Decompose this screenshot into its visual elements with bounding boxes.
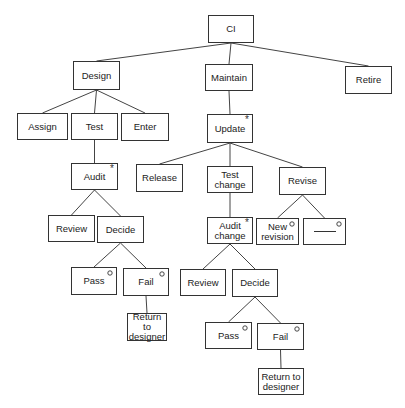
edge-ci-to-retire <box>231 43 369 66</box>
node-assign: Assign <box>17 113 68 140</box>
node-label: Assign <box>28 122 57 132</box>
node-fail-2: Fail <box>257 323 304 350</box>
selection-circle-icon <box>159 271 165 278</box>
selection-circle-icon <box>336 221 342 228</box>
node-label: Return to designer <box>261 372 300 392</box>
edge-ci-to-design <box>97 43 232 61</box>
edge-decide-2-to-pass-2 <box>229 297 256 322</box>
node-blank <box>303 218 346 245</box>
node-fail-1: Fail <box>123 268 169 296</box>
node-label: Test <box>86 122 103 132</box>
selection-circle-icon <box>294 326 300 333</box>
node-pass-1: Pass <box>71 267 117 295</box>
node-review-2: Review <box>180 269 226 296</box>
node-label: Test change <box>214 170 245 190</box>
node-label: Review <box>56 224 87 234</box>
sequence-asterisk-icon: * <box>245 219 249 226</box>
node-ci: CI <box>208 15 254 43</box>
node-label: Fail <box>273 332 288 342</box>
edge-decide-2-to-fail-2 <box>255 297 281 323</box>
sequence-asterisk-icon: * <box>110 165 114 172</box>
edge-ci-to-maintain <box>229 43 231 64</box>
edge-decide-1-to-fail-1 <box>121 243 147 268</box>
edge-revise-to-blank <box>303 195 325 218</box>
node-label: Maintain <box>211 73 247 83</box>
node-design: Design <box>73 61 120 90</box>
node-label: Fail <box>138 277 153 287</box>
node-label: Pass <box>218 331 239 341</box>
edge-fail-2-to-return-2 <box>281 350 282 368</box>
node-decide-1: Decide <box>97 216 144 243</box>
edge-maintain-to-update <box>229 91 230 114</box>
node-decide-2: Decide <box>232 269 278 297</box>
node-label: Retire <box>356 75 381 85</box>
node-audit-change: Audit change* <box>207 217 253 244</box>
node-return-1: Return to designer <box>127 313 167 341</box>
node-label: Update <box>215 124 246 134</box>
tree-edges <box>0 0 405 408</box>
node-test-change: Test change <box>207 166 253 193</box>
node-label: Return to designer <box>128 312 166 342</box>
edge-design-to-enter <box>97 90 146 113</box>
node-label: Revise <box>288 176 317 186</box>
node-label: CI <box>226 24 236 34</box>
node-audit: Audit* <box>71 163 118 190</box>
edge-update-to-revise <box>230 143 303 167</box>
node-label: Audit <box>84 172 106 182</box>
edge-design-to-assign <box>43 90 97 113</box>
edge-audit-change-to-decide-2 <box>230 244 255 269</box>
node-release: Release <box>136 164 183 192</box>
selection-circle-icon <box>289 221 295 228</box>
selection-circle-icon <box>242 325 248 332</box>
node-revise: Revise <box>279 167 326 195</box>
edge-decide-1-to-pass-1 <box>94 243 121 267</box>
node-review-1: Review <box>48 215 95 242</box>
node-return-2: Return to designer <box>258 368 304 395</box>
node-enter: Enter <box>121 113 169 141</box>
node-label: Decide <box>106 225 136 235</box>
node-pass-2: Pass <box>205 322 252 349</box>
edge-revise-to-new-revision <box>278 195 303 218</box>
node-update: Update* <box>207 114 253 143</box>
node-label: Design <box>82 71 112 81</box>
edge-update-to-release <box>160 143 231 164</box>
node-label: Review <box>187 278 218 288</box>
sequence-asterisk-icon: * <box>245 116 249 123</box>
node-label: Decide <box>240 278 270 288</box>
edge-audit-to-decide-1 <box>95 190 121 216</box>
blank-placeholder-line <box>314 231 336 232</box>
node-retire: Retire <box>345 66 392 94</box>
edge-audit-change-to-review-2 <box>203 244 230 269</box>
node-label: Pass <box>83 276 104 286</box>
node-label: Audit change <box>214 221 245 241</box>
edge-design-to-test <box>95 90 97 113</box>
selection-circle-icon <box>107 270 113 277</box>
tree-diagram: CIDesignMaintainRetireAssignTestEnterUpd… <box>0 0 405 408</box>
node-new-revision: New revision <box>256 218 299 245</box>
node-label: Release <box>142 173 177 183</box>
node-maintain: Maintain <box>205 64 253 91</box>
node-test: Test <box>71 113 118 140</box>
node-label: Enter <box>134 122 157 132</box>
edge-audit-to-review-1 <box>72 190 95 215</box>
